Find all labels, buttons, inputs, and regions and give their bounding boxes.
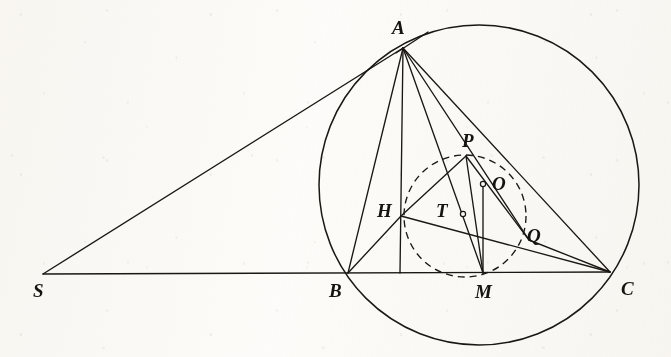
segments-group xyxy=(43,32,610,274)
point-label-s: S xyxy=(33,281,44,300)
segment-Q-C xyxy=(529,240,610,272)
point-label-q: Q xyxy=(527,226,541,245)
point-marker-o xyxy=(480,181,485,186)
segment-A-H-extended xyxy=(400,48,403,273)
segment-A-C xyxy=(403,48,610,272)
geometry-figure: ASBCMHPQOT xyxy=(0,0,671,357)
point-label-b: B xyxy=(329,281,342,300)
segment-H-P xyxy=(401,156,466,216)
segment-S-A xyxy=(43,48,403,274)
segment-S-C xyxy=(43,272,610,274)
point-label-c: C xyxy=(621,279,634,298)
segment-P-M xyxy=(466,156,483,273)
geometry-canvas xyxy=(0,0,671,357)
point-markers-group xyxy=(460,181,485,216)
segment-P-Q xyxy=(466,156,529,240)
point-marker-t xyxy=(460,211,465,216)
segment-H-C xyxy=(401,216,610,272)
point-label-a: A xyxy=(392,18,405,37)
point-label-h: H xyxy=(377,201,392,220)
segment-B-H xyxy=(348,216,401,273)
segment-A-M xyxy=(403,48,483,273)
point-label-m: M xyxy=(475,282,492,301)
point-label-p: P xyxy=(462,131,474,150)
point-label-o: O xyxy=(492,174,506,193)
point-label-t: T xyxy=(436,201,448,220)
